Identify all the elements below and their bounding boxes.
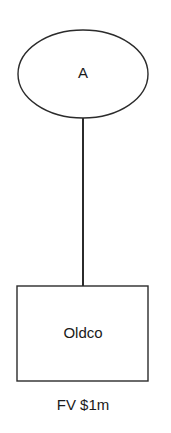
ellipse-label-a: A — [17, 64, 149, 82]
fair-value-annotation: FV $1m — [0, 396, 166, 414]
box-label-oldco: Oldco — [17, 324, 149, 342]
